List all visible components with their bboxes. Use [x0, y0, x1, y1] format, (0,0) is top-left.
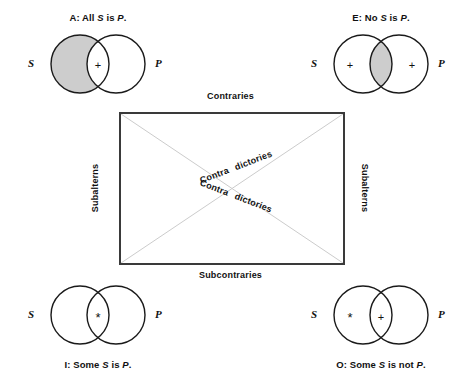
- venn-o-caption-quantifier: Some: [350, 359, 376, 370]
- venn-e-label-s: S: [311, 57, 317, 69]
- venn-o-label-p: P: [438, 308, 445, 320]
- venn-o-caption: O: Some S is not P.: [305, 359, 457, 370]
- venn-e-caption-period: .: [407, 12, 410, 23]
- venn-e-caption-copula: is: [390, 12, 398, 23]
- venn-a-caption-subject: S: [97, 12, 103, 23]
- venn-a-label-p: P: [155, 57, 162, 69]
- venn-i-mark-intersection: *: [95, 311, 100, 324]
- venn-diagram-i: S P * I: Some S is P.: [22, 278, 174, 370]
- venn-a-caption-copula: is: [106, 12, 114, 23]
- venn-i-caption-quantifier: Some: [73, 359, 99, 370]
- label-contraries: Contraries: [0, 91, 461, 101]
- venn-o-caption-period: .: [423, 359, 426, 370]
- square-of-opposition-figure: A: All S is P. S P + E: No: [0, 0, 461, 377]
- venn-o-mark-s-only: *: [347, 311, 352, 324]
- venn-i-caption-prefix: I:: [64, 359, 70, 370]
- venn-e-caption-subject: S: [380, 12, 386, 23]
- venn-e-mark-p-only: +: [409, 60, 415, 71]
- label-subalterns-left: Subalterns: [90, 164, 100, 213]
- venn-o-label-s: S: [311, 308, 317, 320]
- venn-i-caption-copula: is: [111, 359, 119, 370]
- venn-o-caption-prefix: O:: [336, 359, 347, 370]
- venn-a-caption-prefix: A:: [69, 12, 79, 23]
- venn-i-caption: I: Some S is P.: [22, 359, 174, 370]
- venn-i-caption-period: .: [129, 359, 132, 370]
- venn-i-label-p: P: [155, 308, 162, 320]
- venn-a-mark-intersection: +: [95, 60, 101, 71]
- venn-e-caption-quantifier: No: [365, 12, 378, 23]
- venn-a-caption-quantifier: All: [82, 12, 94, 23]
- venn-diagram-o: S P * + O: Some S is not P.: [305, 278, 457, 370]
- venn-o-mark-intersection: +: [378, 312, 384, 323]
- venn-o-caption-subject: S: [379, 359, 385, 370]
- venn-e-label-p: P: [438, 57, 445, 69]
- label-subalterns-right: Subalterns: [360, 164, 370, 213]
- venn-o-caption-copula: is not: [388, 359, 414, 370]
- venn-o-circles: [305, 278, 457, 370]
- venn-e-caption: E: No S is P.: [305, 12, 457, 23]
- venn-i-label-s: S: [28, 308, 34, 320]
- venn-a-caption-period: .: [124, 12, 127, 23]
- venn-e-mark-s-only: +: [347, 60, 353, 71]
- venn-i-caption-subject: S: [102, 359, 108, 370]
- label-subcontraries: Subcontraries: [0, 270, 461, 280]
- venn-a-label-s: S: [28, 57, 34, 69]
- venn-a-caption: A: All S is P.: [22, 12, 174, 23]
- venn-e-caption-prefix: E:: [352, 12, 362, 23]
